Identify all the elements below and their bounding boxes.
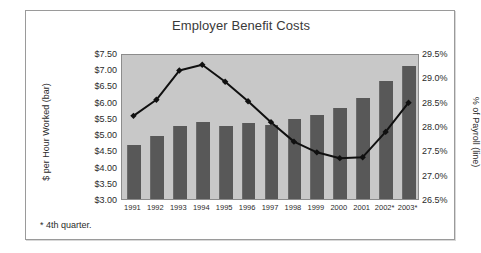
x-axis-tick: 1993 <box>167 203 190 213</box>
line-series <box>122 55 418 199</box>
right-axis-tick: 27.5% <box>422 147 448 156</box>
x-axis-tick: 1999 <box>304 203 327 213</box>
right-axis-tick: 28.0% <box>422 123 448 132</box>
left-axis-tick: $7.50 <box>94 50 117 59</box>
left-axis-tick: $3.00 <box>94 196 117 205</box>
x-axis-tick: 1994 <box>190 203 213 213</box>
plot-area <box>121 54 419 200</box>
footnote: * 4th quarter. <box>40 220 92 230</box>
x-axis-tick: 2001 <box>350 203 373 213</box>
left-axis-tick: $4.00 <box>94 163 117 172</box>
right-axis-tick: 28.5% <box>422 98 448 107</box>
line-marker <box>337 155 343 161</box>
left-axis-tick: $6.00 <box>94 98 117 107</box>
right-axis-tick: 29.5% <box>422 50 448 59</box>
left-axis-tick-labels: $7.50$7.00$6.50$6.00$5.50$5.00$4.50$4.00… <box>72 54 117 200</box>
x-axis-tick: 1992 <box>144 203 167 213</box>
x-axis-tick: 1991 <box>121 203 144 213</box>
right-axis-title: % of Payroll (line) <box>471 82 481 182</box>
line-path-svg <box>122 55 419 200</box>
chart-title: Employer Benefit Costs <box>26 18 456 33</box>
x-axis-tick: 1998 <box>281 203 304 213</box>
x-axis-tick: 2002* <box>373 203 396 213</box>
left-axis-title: $ per Hour Worked (bar) <box>41 82 51 182</box>
right-axis-tick-labels: 29.5%29.0%28.5%28.0%27.5%27.0%26.5% <box>422 54 466 200</box>
left-axis-tick: $5.00 <box>94 131 117 140</box>
chart-card: Employer Benefit Costs $ per Hour Worked… <box>25 10 455 240</box>
x-axis-tick: 2000 <box>327 203 350 213</box>
right-axis-tick: 27.0% <box>422 171 448 180</box>
left-axis-tick: $4.50 <box>94 147 117 156</box>
right-axis-tick: 29.0% <box>422 74 448 83</box>
right-axis-tick: 26.5% <box>422 196 448 205</box>
x-axis-tick: 1996 <box>236 203 259 213</box>
left-axis-tick: $6.50 <box>94 82 117 91</box>
x-axis-tick: 2003* <box>396 203 419 213</box>
left-axis-tick: $3.50 <box>94 179 117 188</box>
line-marker <box>314 149 320 155</box>
left-axis-tick: $5.50 <box>94 114 117 123</box>
left-axis-tick: $7.00 <box>94 66 117 75</box>
x-axis-tick: 1997 <box>259 203 282 213</box>
x-axis-tick: 1995 <box>213 203 236 213</box>
x-axis-tick-labels: 1991199219931994199519961997199819992000… <box>121 203 419 217</box>
